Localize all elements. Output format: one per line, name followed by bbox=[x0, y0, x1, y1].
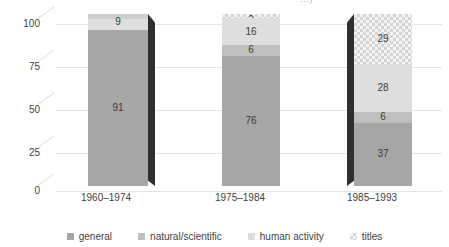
legend-label: general bbox=[79, 231, 112, 242]
segment-value-label: 28 bbox=[354, 83, 412, 93]
x-category-label-3: 1985–1993 bbox=[322, 192, 422, 203]
y-tick-label-75: 75 bbox=[6, 62, 40, 72]
chart-legend: general natural/scientific human activit… bbox=[0, 228, 449, 244]
bar-group-1960-1974[interactable]: 9 91 bbox=[88, 14, 148, 186]
legend-label: titles bbox=[362, 231, 383, 242]
segment-value-label: 6 bbox=[222, 45, 280, 55]
segment-human-activity-1[interactable]: 9 bbox=[88, 14, 148, 30]
legend-item-general[interactable]: general bbox=[67, 231, 112, 242]
x-category-label-1: 1960–1974 bbox=[56, 192, 156, 203]
y-tick-label-50: 50 bbox=[6, 105, 40, 115]
segment-general-1[interactable]: 91 bbox=[88, 30, 148, 187]
bar-stack-1: 9 91 bbox=[88, 14, 148, 186]
legend-item-natural-scientific[interactable]: natural/scientific bbox=[138, 231, 222, 242]
segment-value-label: 16 bbox=[222, 27, 280, 37]
segment-value-label: 91 bbox=[88, 103, 148, 113]
segment-natural-scientific-2[interactable]: 6 bbox=[222, 45, 280, 56]
segment-titles-3[interactable]: 29 bbox=[354, 14, 412, 64]
segment-human-activity-2[interactable]: 16 bbox=[222, 18, 280, 45]
y-axis: 100 75 50 25 0 bbox=[4, 0, 40, 247]
legend-swatch-icon bbox=[138, 233, 145, 240]
x-category-label-2: 1975–1984 bbox=[190, 192, 290, 203]
legend-swatch-icon bbox=[248, 233, 255, 240]
bar-stack-2: 2 16 6 76 bbox=[222, 14, 280, 186]
clipped-title-remnant: …) bbox=[300, 0, 440, 4]
legend-swatch-icon bbox=[350, 233, 357, 240]
bar-group-1985-1993[interactable]: 29 28 6 37 bbox=[354, 14, 412, 186]
segment-value-label: 6 bbox=[354, 112, 412, 122]
legend-swatch-icon bbox=[67, 233, 74, 240]
y-tick-label-100: 100 bbox=[6, 19, 40, 29]
y-tick-label-25: 25 bbox=[6, 148, 40, 158]
segment-general-3[interactable]: 37 bbox=[354, 123, 412, 187]
bar-group-1975-1984[interactable]: 2 16 6 76 bbox=[222, 14, 280, 186]
legend-label: human activity bbox=[260, 231, 324, 242]
legend-label: natural/scientific bbox=[150, 231, 222, 242]
segment-value-label: 76 bbox=[222, 116, 280, 126]
plot-area: 9 91 2 16 6 76 bbox=[42, 14, 442, 186]
stacked-bar-chart: …) 100 75 50 25 0 9 91 bbox=[0, 0, 449, 247]
segment-value-label: 9 bbox=[88, 17, 148, 27]
segment-natural-scientific-3[interactable]: 6 bbox=[354, 112, 412, 123]
bar-stack-3: 29 28 6 37 bbox=[354, 14, 412, 186]
legend-item-human-activity[interactable]: human activity bbox=[248, 231, 324, 242]
segment-value-label: 37 bbox=[354, 149, 412, 159]
segment-value-label: 29 bbox=[354, 34, 412, 44]
segment-general-2[interactable]: 76 bbox=[222, 56, 280, 187]
y-tick-label-0: 0 bbox=[6, 186, 40, 196]
legend-item-titles[interactable]: titles bbox=[350, 231, 383, 242]
bar-side-face-3 bbox=[347, 14, 354, 186]
bar-side-face-1 bbox=[148, 14, 155, 186]
segment-human-activity-3[interactable]: 28 bbox=[354, 64, 412, 112]
